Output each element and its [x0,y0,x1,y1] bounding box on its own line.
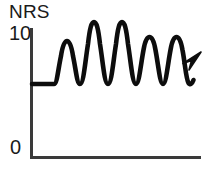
data-series-nrs-pain-score [32,22,201,84]
nrs-wave-line [32,22,194,84]
nrs-pain-score-chart: NRS 10 0 [0,0,219,172]
chart-canvas [0,0,219,172]
